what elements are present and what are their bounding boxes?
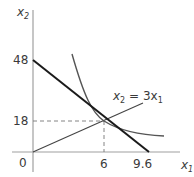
y-tick-18: 18 (13, 114, 28, 128)
x-tick-9-6: 9.6 (133, 157, 152, 171)
budget-line (33, 60, 149, 152)
y-axis-label: x2 (16, 5, 29, 21)
y-tick-48: 48 (13, 53, 28, 67)
ray-label: x2 = 3x1 (112, 89, 163, 105)
x-axis-label: x1 (180, 158, 193, 174)
origin-label: 0 (19, 156, 27, 170)
x-tick-6: 6 (100, 157, 108, 171)
diagram-canvas: x2 48 18 0 6 9.6 x1 x2 = 3x1 (0, 0, 194, 177)
ray-line (33, 103, 143, 152)
